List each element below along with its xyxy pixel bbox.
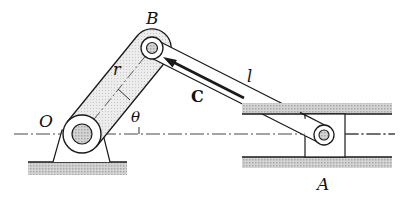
label-a: A	[315, 174, 329, 194]
slider-guide-top	[242, 103, 392, 114]
connecting-rod-ba	[148, 40, 329, 143]
label-b: B	[145, 8, 159, 28]
ground-base-o	[28, 162, 127, 175]
pivot-o	[63, 115, 101, 153]
label-c: C	[191, 87, 204, 106]
label-l: l	[247, 67, 252, 86]
pin-b	[141, 37, 163, 59]
label-theta: θ	[131, 108, 140, 126]
slider-guide-bottom	[242, 157, 392, 168]
slider-crank-diagram: O B r θ C l A	[0, 0, 407, 199]
pin-a	[314, 125, 334, 145]
label-o: O	[39, 111, 53, 131]
label-r: r	[113, 60, 122, 79]
